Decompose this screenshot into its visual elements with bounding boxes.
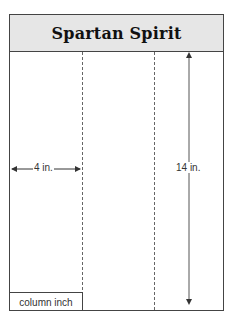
dimension-arrows [0, 0, 233, 317]
width-label: 4 in. [33, 162, 54, 173]
height-arrow-icon [186, 52, 192, 305]
height-label: 14 in. [175, 162, 201, 173]
